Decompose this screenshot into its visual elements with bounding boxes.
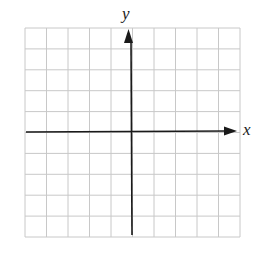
coordinate-plane: [0, 0, 265, 255]
y-axis: [131, 40, 132, 235]
x-axis: [26, 131, 228, 132]
x-axis-label: x: [243, 121, 251, 138]
x-axis-arrow-icon: [224, 127, 237, 136]
y-axis-arrow-icon: [124, 29, 133, 43]
y-axis-label: y: [122, 5, 130, 22]
